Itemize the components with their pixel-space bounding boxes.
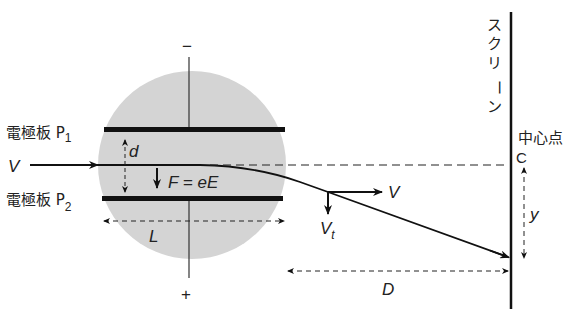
plate-p1-label: 電極板 P1: [6, 124, 72, 145]
deflection-diagram: − + V d F = eE L 電極板 P1 電極板 P2 V Vt D ス …: [0, 0, 575, 320]
svg-text:リ: リ: [487, 54, 502, 72]
plate-p1: [104, 127, 285, 132]
screen-label: ス ク リ ー ン: [487, 16, 508, 116]
plus-sign: +: [181, 285, 191, 304]
svg-text:ク: ク: [487, 35, 502, 53]
svg-text:ン: ン: [487, 98, 502, 116]
distance-label: D: [382, 280, 394, 299]
plate-p2-label: 電極板 P2: [6, 191, 72, 214]
minus-sign: −: [182, 37, 192, 56]
length-label: L: [149, 227, 158, 246]
center-c-label: C: [516, 149, 527, 166]
trajectory-arrowhead: [490, 251, 509, 258]
plate-p2: [102, 196, 283, 201]
velocity-in-label: V: [8, 157, 21, 176]
svg-text:ー: ー: [490, 80, 508, 95]
svg-text:ス: ス: [487, 16, 502, 34]
gap-label: d: [129, 142, 139, 161]
force-label: F = eE: [168, 173, 219, 192]
deflection-label: y: [529, 205, 540, 224]
center-point-label: 中心点: [518, 129, 563, 147]
velocity-out-label: V: [388, 183, 401, 202]
velocity-transverse-label: Vt: [320, 219, 335, 242]
